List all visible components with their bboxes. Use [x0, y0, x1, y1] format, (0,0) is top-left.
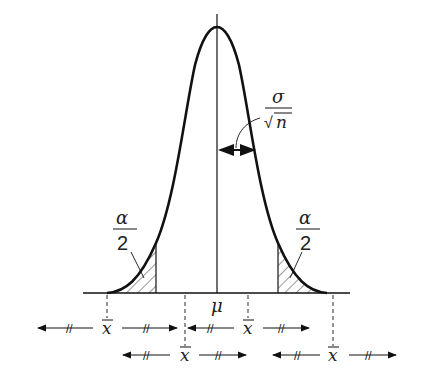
interval-row1-b: // x // — [188, 318, 309, 338]
sampling-distribution-diagram: σ √ n α 2 α 2 μ // x // // x // // x — [0, 0, 424, 382]
svg-text://: // — [66, 322, 73, 336]
std-error-leader — [236, 118, 260, 148]
interval-row1-a: // x // — [38, 318, 177, 338]
xbar-label: x — [243, 318, 253, 338]
mu-label: μ — [211, 295, 223, 316]
right-alpha-denominator: 2 — [300, 232, 311, 254]
xbar-label: x — [180, 345, 190, 365]
left-tail-area — [107, 243, 156, 293]
svg-text://: // — [215, 349, 222, 363]
svg-text://: // — [294, 349, 301, 363]
left-alpha-label: α — [116, 207, 128, 228]
sigma-label: σ — [272, 86, 285, 107]
interval-row2-b: // x // — [273, 345, 396, 365]
svg-text://: // — [207, 322, 214, 336]
xbar-label: x — [102, 318, 112, 338]
radical-sign: √ — [264, 114, 273, 131]
left-alpha-denominator: 2 — [117, 232, 128, 254]
svg-text://: // — [143, 349, 150, 363]
n-label: n — [276, 112, 287, 132]
svg-text://: // — [278, 322, 285, 336]
svg-text://: // — [365, 349, 372, 363]
xbar-label: x — [328, 345, 338, 365]
interval-row2-a: // x // — [123, 345, 246, 365]
svg-text://: // — [143, 322, 150, 336]
right-alpha-label: α — [299, 207, 311, 228]
